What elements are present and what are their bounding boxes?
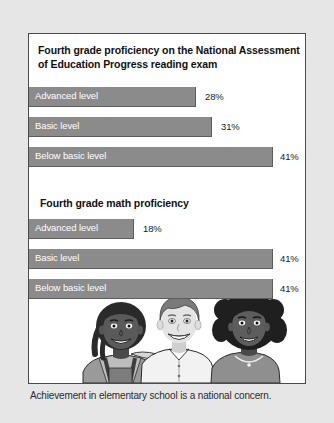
- bar-fill: Advanced level: [29, 87, 196, 107]
- bar-fill: Below basic level: [29, 147, 273, 167]
- bar-fill: Basic level: [29, 249, 273, 269]
- three-children-illustration: [29, 288, 305, 383]
- figure-container: Fourth grade proficiency on the National…: [0, 0, 334, 423]
- bar-value-label: 41%: [280, 151, 299, 162]
- bar-value-label: 31%: [221, 121, 240, 132]
- bar-category-label: Below basic level: [35, 150, 106, 161]
- bar-value-label: 28%: [205, 91, 224, 102]
- chart-title-math: Fourth grade math proficiency: [40, 197, 189, 209]
- bar-value-label: 41%: [280, 283, 299, 294]
- bar-value-label: 41%: [280, 253, 299, 264]
- bar-category-label: Basic level: [35, 120, 79, 131]
- bar-category-label: Basic level: [35, 252, 79, 263]
- bar-row: Advanced level 28%: [29, 87, 305, 107]
- bar-category-label: Advanced level: [35, 90, 98, 101]
- bar-row: Below basic level 41%: [29, 147, 305, 167]
- bar-fill: Basic level: [29, 117, 212, 137]
- bar-fill: Advanced level: [29, 219, 134, 239]
- bar-row: Basic level 41%: [29, 249, 305, 269]
- bar-row: Advanced level 18%: [29, 219, 305, 239]
- bar-category-label: Below basic level: [35, 282, 106, 293]
- chart-panel: Fourth grade proficiency on the National…: [28, 33, 306, 384]
- figure-caption: Achievement in elementary school is a na…: [30, 390, 310, 401]
- bar-fill: Below basic level: [29, 279, 273, 299]
- bar-row: Below basic level 41%: [29, 279, 305, 299]
- bar-row: Basic level 31%: [29, 117, 305, 137]
- bar-value-label: 18%: [143, 223, 162, 234]
- bar-category-label: Advanced level: [35, 222, 98, 233]
- chart-title-reading: Fourth grade proficiency on the National…: [38, 44, 300, 71]
